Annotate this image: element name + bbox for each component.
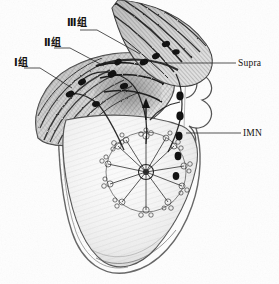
anatomical-figure: Ⅰ组 Ⅱ组 Ⅲ组 Supra IMN (0, 0, 279, 284)
illustration-canvas (0, 0, 279, 284)
label-level-3: Ⅲ组 (67, 18, 87, 28)
label-level-1: Ⅰ组 (14, 58, 28, 68)
label-internal-mammary-nodes: IMN (243, 129, 262, 139)
label-supraclavicular: Supra (238, 59, 261, 69)
paper-grain (0, 0, 279, 284)
label-level-2: Ⅱ组 (44, 38, 61, 48)
